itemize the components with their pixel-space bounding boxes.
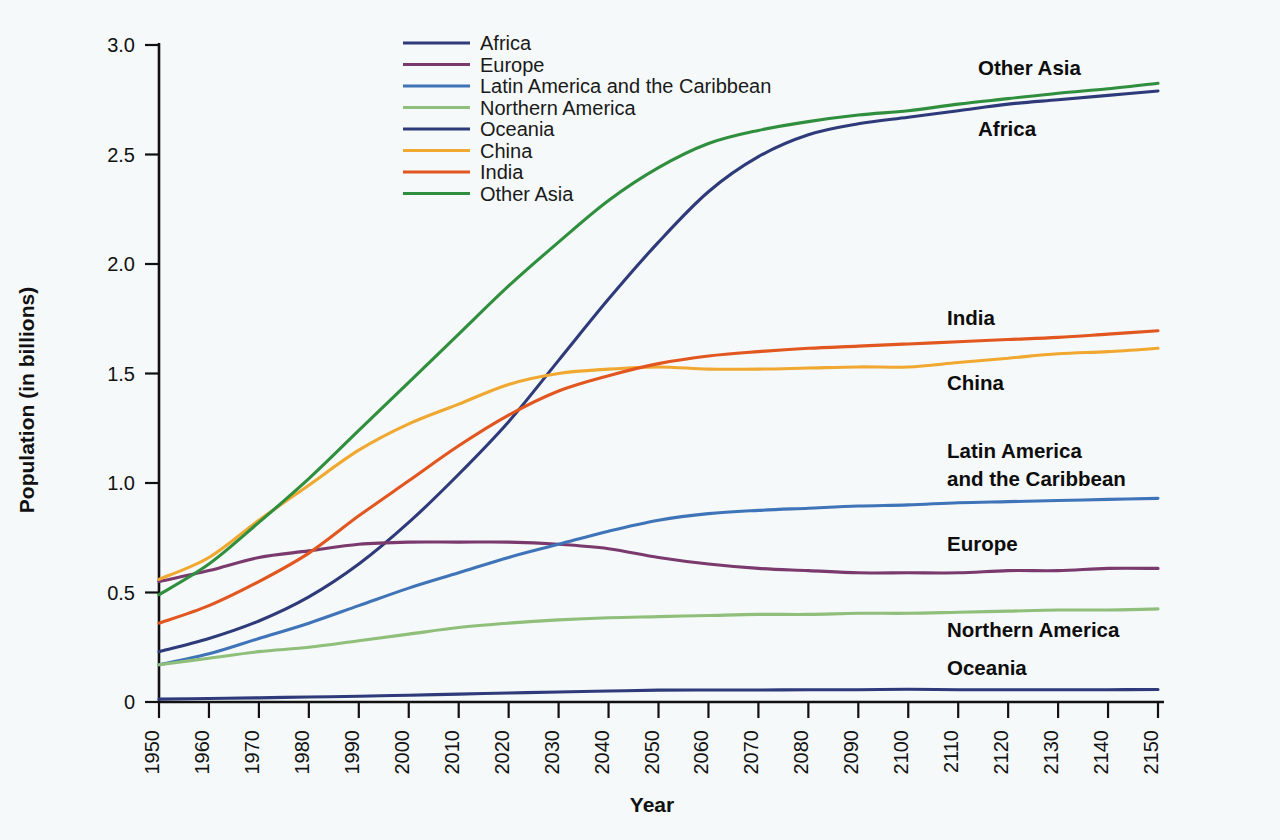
x-tick-label: 2060	[690, 730, 712, 775]
legend-label-3: Northern America	[480, 97, 636, 119]
x-tick-label: 1980	[291, 730, 313, 775]
x-tick-label: 2110	[940, 730, 962, 773]
legend-label-1: Europe	[480, 54, 545, 76]
x-tick-label: 1970	[241, 730, 263, 775]
y-tick-label: 1.5	[107, 363, 135, 385]
series-annotation-5: and the Caribbean	[947, 467, 1126, 490]
legend-label-0: Africa	[480, 32, 532, 54]
series-annotation-6: Europe	[947, 532, 1018, 555]
x-tick-label: 1990	[341, 730, 363, 775]
x-tick-label: 2150	[1140, 730, 1162, 775]
series-annotation-4: Latin America	[947, 439, 1082, 462]
y-axis-title: Population (in billions)	[15, 287, 38, 513]
x-tick-label: 2050	[641, 730, 663, 775]
legend-label-2: Latin America and the Caribbean	[480, 75, 771, 97]
x-tick-label: 2100	[890, 730, 912, 775]
x-tick-label: 2140	[1090, 730, 1112, 775]
series-annotation-8: Oceania	[947, 656, 1027, 679]
x-tick-label: 2130	[1040, 730, 1062, 775]
series-annotation-0: Other Asia	[978, 56, 1082, 79]
x-tick-label: 2020	[491, 730, 513, 775]
series-annotation-7: Northern America	[947, 618, 1120, 641]
chart-canvas: 00.51.01.52.02.53.0 19501960197019801990…	[0, 0, 1280, 840]
x-tick-label: 2080	[790, 730, 812, 775]
x-tick-label: 2090	[840, 730, 862, 775]
x-tick-label: 1950	[141, 730, 163, 775]
series-annotation-2: India	[947, 306, 995, 329]
x-tick-label: 1960	[191, 730, 213, 775]
population-projection-chart: 00.51.01.52.02.53.0 19501960197019801990…	[0, 0, 1280, 840]
x-tick-label: 2030	[541, 730, 563, 775]
legend-label-4: Oceania	[480, 118, 555, 140]
chart-background	[0, 0, 1280, 840]
y-tick-label: 0	[124, 691, 135, 713]
x-tick-label: 2070	[740, 730, 762, 775]
x-tick-label: 2010	[441, 730, 463, 775]
legend-label-5: China	[480, 140, 533, 162]
x-tick-label: 2040	[591, 730, 613, 775]
x-tick-label: 2000	[391, 730, 413, 775]
y-tick-label: 3.0	[107, 34, 135, 56]
legend-label-6: India	[480, 161, 524, 183]
y-tick-label: 2.0	[107, 253, 135, 275]
y-tick-label: 0.5	[107, 582, 135, 604]
x-axis-title: Year	[630, 793, 674, 816]
series-annotation-1: Africa	[978, 117, 1037, 140]
legend-label-7: Other Asia	[480, 183, 574, 205]
y-tick-label: 2.5	[107, 144, 135, 166]
series-annotation-3: China	[947, 371, 1005, 394]
x-tick-label: 2120	[990, 730, 1012, 775]
y-tick-label: 1.0	[107, 472, 135, 494]
